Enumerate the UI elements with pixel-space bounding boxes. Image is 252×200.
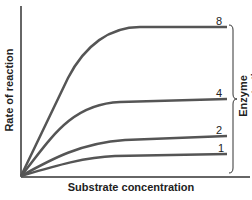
curve-label-2: 2 xyxy=(216,124,222,136)
x-axis-label: Substrate concentration xyxy=(0,181,252,193)
chart-plot xyxy=(0,0,252,200)
enzyme-concentration-label: Enzyme concentration xyxy=(237,41,252,151)
brace xyxy=(229,25,237,173)
y-axis-label: Rate of reaction xyxy=(3,45,15,135)
curve-label-8: 8 xyxy=(216,15,222,27)
curve-1 xyxy=(21,154,227,176)
curve-label-4: 4 xyxy=(216,87,222,99)
curve-label-1: 1 xyxy=(218,142,224,154)
